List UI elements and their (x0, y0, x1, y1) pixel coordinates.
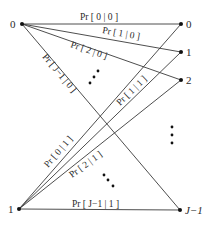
output-label-1: 1 (186, 46, 192, 58)
output-node-2 (179, 78, 183, 82)
edge-label-2-1: Pr [ 2 | 1 ] (67, 149, 104, 179)
edge-1-to-1 (19, 52, 181, 209)
edge-label-jm1-1: Pr [ J−1 | 1 ] (72, 199, 119, 209)
output-node-jm1 (178, 208, 182, 212)
input-label-1: 1 (8, 203, 14, 215)
input-node-1 (17, 207, 21, 211)
edge-1-to-2 (19, 80, 181, 209)
output-node-0 (179, 22, 183, 26)
lower-middle-dots (103, 174, 115, 188)
output-label-jm1: J−1 (185, 204, 203, 216)
right-output-dots (171, 126, 174, 145)
output-node-1 (179, 50, 183, 54)
edge-label-0-0: Pr [ 0 | 0 ] (80, 12, 118, 22)
upper-middle-dots (89, 70, 100, 85)
output-label-2: 2 (186, 74, 192, 86)
channel-transition-diagram: 0 1 0 1 2 J−1 Pr [ 0 | 0 ] Pr [ 1 | 0 ] … (0, 0, 211, 225)
edge-label-1-1: Pr [ 1 | 1 ] (114, 74, 148, 108)
output-label-0: 0 (186, 18, 192, 30)
edge-label-jm1-0: Pr [ J−1 | 0 ] (40, 52, 78, 95)
edge-label-2-0: Pr [ 2 | 0 ] (69, 39, 108, 61)
input-node-0 (20, 22, 24, 26)
edge-1-to-jm1 (19, 209, 180, 210)
input-label-0: 0 (10, 18, 16, 30)
edge-0-to-1 (22, 24, 181, 52)
